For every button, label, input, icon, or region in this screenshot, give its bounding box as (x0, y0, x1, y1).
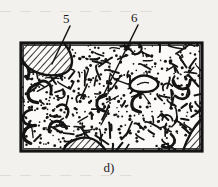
scan-bleedthrough-bottom: — — — — — — — (0, 168, 218, 184)
callout-label-6: 6 (131, 11, 138, 24)
clast-outline-oval (130, 76, 159, 92)
figure-d-root: — — — — — — — — (0, 0, 218, 187)
figure-drawing-canvas (0, 0, 218, 187)
callout-label-5: 5 (63, 12, 70, 25)
